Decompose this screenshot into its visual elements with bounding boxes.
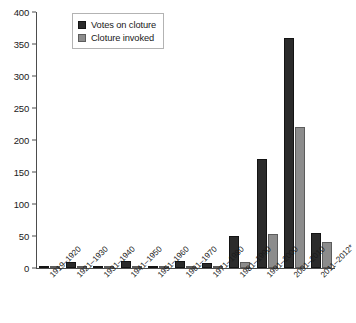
bar-votes-on-cloture [284, 38, 294, 268]
x-axis-label-cell: 1919–1920 [36, 269, 63, 323]
bar-group [145, 12, 172, 268]
legend-label-votes: Votes on cloture [91, 20, 156, 30]
x-axis-label-cell: 1971–1980 [199, 269, 226, 323]
y-axis-tick-label: 350 [14, 39, 29, 50]
y-axis-tick: 0 [24, 263, 36, 274]
y-axis-tick-label: 200 [14, 135, 29, 146]
bar-group [199, 12, 226, 268]
bar-group [90, 12, 117, 268]
bar-group [118, 12, 145, 268]
bar-group [36, 12, 63, 268]
y-axis-tick: 50 [19, 231, 36, 242]
y-axis-tick: 100 [14, 199, 36, 210]
x-axis-label-cell: 1931–1940 [90, 269, 117, 323]
x-axis-label-cell: 1951–1960 [145, 269, 172, 323]
bar-group [172, 12, 199, 268]
legend-item-cloture-invoked: Cloture invoked [78, 31, 156, 44]
bar-group [254, 12, 281, 268]
y-axis-tick: 300 [14, 71, 36, 82]
y-axis-tick-label: 300 [14, 71, 29, 82]
bar-votes-on-cloture [39, 266, 49, 268]
legend-label-invoked: Cloture invoked [91, 33, 154, 43]
y-axis-tick: 350 [14, 39, 36, 50]
legend-item-votes-on-cloture: Votes on cloture [78, 18, 156, 31]
x-axis-label-cell: 1991–2000 [254, 269, 281, 323]
x-axis-label-cell: 2011–2012* [308, 269, 335, 323]
chart-legend: Votes on cloture Cloture invoked [72, 13, 164, 49]
bar-group [226, 12, 253, 268]
y-axis-tick: 200 [14, 135, 36, 146]
x-axis-label-cell: 1921–1930 [63, 269, 90, 323]
bar-votes-on-cloture [93, 266, 103, 268]
bar-group [63, 12, 90, 268]
x-axis-label-cell: 1961–1970 [172, 269, 199, 323]
bar-group [281, 12, 308, 268]
y-axis-tick-label: 100 [14, 199, 29, 210]
bar-group [308, 12, 335, 268]
y-axis-tick-label: 50 [19, 231, 29, 242]
y-axis-tick-label: 0 [24, 263, 29, 274]
y-axis-tick-label: 150 [14, 167, 29, 178]
x-axis-label-cell: 2001–2010 [281, 269, 308, 323]
legend-swatch-votes-icon [78, 21, 86, 29]
x-axis-labels: 1919–19201921–19301931–19401941–19501951… [36, 269, 335, 323]
y-axis-tick: 250 [14, 103, 36, 114]
bar-votes-on-cloture [148, 266, 158, 268]
x-axis-label-cell: 1941–1950 [118, 269, 145, 323]
y-axis-tick: 400 [14, 7, 36, 18]
x-axis-label-cell: 1981–1990 [226, 269, 253, 323]
y-axis-tick-label: 250 [14, 103, 29, 114]
legend-swatch-invoked-icon [78, 34, 86, 42]
y-axis-tick-label: 400 [14, 7, 29, 18]
y-axis-tick: 150 [14, 167, 36, 178]
bar-series-container [36, 12, 335, 268]
